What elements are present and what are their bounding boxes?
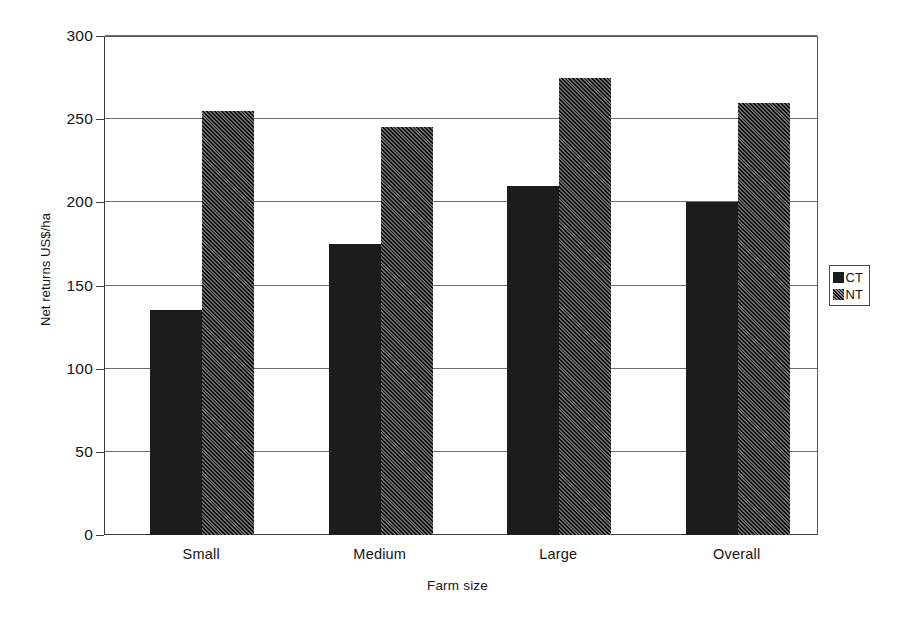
legend-swatch-ct-icon <box>833 272 844 283</box>
y-tick-label-100: 100 <box>33 361 93 377</box>
legend-item-nt: NT <box>833 286 869 303</box>
y-tick-mark-0 <box>96 535 104 536</box>
bar-overall-nt <box>738 103 790 535</box>
y-tick-label-0: 0 <box>33 527 93 543</box>
bar-medium-ct <box>329 244 381 535</box>
legend-item-ct: CT <box>833 269 869 286</box>
legend-swatch-nt-icon <box>833 289 844 300</box>
x-tick-label-medium: Medium <box>305 546 455 562</box>
y-tick-label-200: 200 <box>33 194 93 210</box>
y-tick-label-250: 250 <box>33 111 93 127</box>
y-tick-mark-200 <box>96 202 104 203</box>
bar-large-ct <box>507 186 559 535</box>
bar-large-nt <box>559 78 611 535</box>
y-tick-label-300: 300 <box>33 28 93 44</box>
y-tick-mark-50 <box>96 452 104 453</box>
legend-label-nt: NT <box>846 288 864 301</box>
x-axis-title: Farm size <box>0 578 915 593</box>
legend-label-ct: CT <box>846 271 864 284</box>
bar-small-nt <box>202 111 254 535</box>
x-tick-label-overall: Overall <box>662 546 812 562</box>
chart-figure: Net returns US$/ha 050100150200250300 Sm… <box>0 0 915 618</box>
plot-area <box>104 36 818 535</box>
bar-overall-ct <box>686 202 738 535</box>
x-tick-label-small: Small <box>126 546 276 562</box>
y-tick-label-50: 50 <box>33 444 93 460</box>
bar-small-ct <box>150 310 202 535</box>
y-tick-mark-300 <box>96 36 104 37</box>
y-tick-mark-250 <box>96 119 104 120</box>
x-tick-label-large: Large <box>483 546 633 562</box>
y-tick-mark-100 <box>96 369 104 370</box>
y-tick-mark-150 <box>96 286 104 287</box>
y-tick-label-150: 150 <box>33 278 93 294</box>
gridline-300 <box>105 35 817 36</box>
bar-medium-nt <box>381 127 433 535</box>
legend: CT NT <box>829 265 870 306</box>
